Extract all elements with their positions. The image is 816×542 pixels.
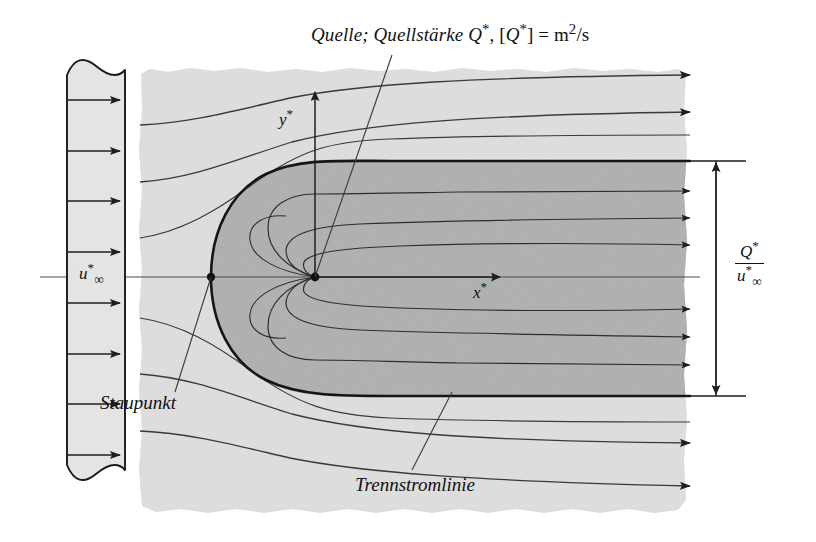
x-axis-star: *	[481, 279, 488, 294]
x-axis-label: x*	[473, 283, 487, 303]
source-caption-bracket-close: ]	[527, 24, 533, 45]
source-caption-lead: Quelle; Quellstärke	[311, 24, 463, 45]
unit-base: m	[554, 24, 569, 45]
unit-per: /s	[576, 24, 589, 45]
body-height-dimension-label: Q* u*∞	[735, 243, 764, 289]
diagram-svg	[0, 0, 816, 542]
dimension-denominator-symbol: u	[737, 266, 746, 285]
dividing-streamline-label: Trennstromlinie	[355, 474, 475, 496]
inflow-velocity-symbol: u	[79, 264, 88, 283]
y-axis-symbol: y	[279, 110, 287, 129]
source-caption-star-2: *	[519, 21, 527, 37]
x-axis-symbol: x	[473, 283, 481, 302]
source-caption-equals: =	[538, 24, 549, 45]
inflow-velocity-label: u*∞	[79, 264, 104, 288]
dimension-numerator: Q*	[735, 243, 764, 262]
y-axis-label: y*	[279, 110, 293, 130]
figure-canvas: Quelle; Quellstärke Q*, [Q*] = m2/s y* x…	[0, 0, 816, 542]
stagnation-point-label: Staupunkt	[100, 392, 176, 414]
dimension-numerator-star: *	[752, 238, 759, 253]
source-caption-unit: m2/s	[554, 24, 589, 45]
half-body-region	[211, 161, 690, 396]
source-caption: Quelle; Quellstärke Q*, [Q*] = m2/s	[311, 24, 589, 46]
y-axis-star: *	[287, 106, 294, 121]
dimension-denominator: u*∞	[735, 266, 764, 289]
dimension-denominator-subscript: ∞	[752, 274, 762, 289]
source-caption-comma: ,	[489, 24, 494, 45]
inflow-velocity-subscript: ∞	[94, 272, 104, 287]
source-caption-symbol-2: Q	[506, 24, 520, 45]
dimension-numerator-symbol: Q	[740, 242, 752, 261]
source-caption-symbol: Q	[468, 24, 482, 45]
